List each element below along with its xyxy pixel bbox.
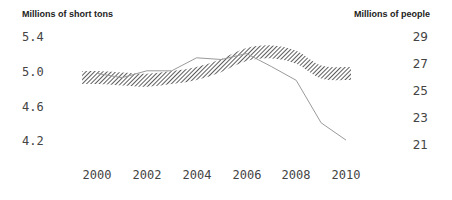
dual-axis-chart: Millions of short tons Millions of peopl… bbox=[0, 0, 452, 200]
people-hatched-band bbox=[82, 45, 351, 86]
plot-area bbox=[0, 0, 452, 200]
